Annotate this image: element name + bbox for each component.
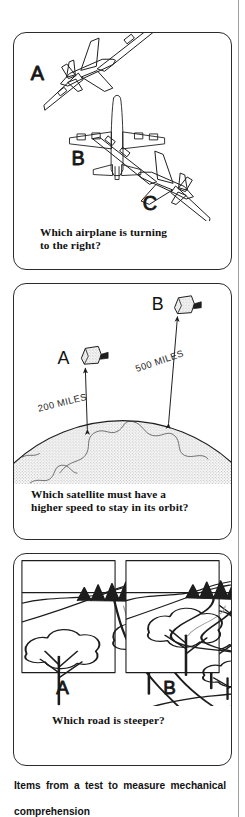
airplane-choice-a-label: A	[31, 62, 45, 84]
satellite-a-body	[81, 346, 108, 364]
road-choice-b-label: B	[163, 677, 176, 698]
airplane-choice-b-label: B	[71, 147, 84, 169]
question-line-1: Which road is steeper?	[52, 714, 221, 727]
roads-illustration: A	[14, 554, 231, 706]
figure-caption: Items from a test to measure mechanical …	[14, 779, 226, 817]
figure-caption-line-1: Items from a test to measure mechanical	[14, 779, 226, 805]
satellite-choice-a-label: A	[58, 348, 70, 368]
question-line-1: Which satellite must have a	[31, 488, 221, 501]
page-margin-rule	[238, 0, 239, 817]
satellite-choice-b-label: B	[152, 294, 164, 314]
question-line-2: higher speed to stay in its orbit?	[31, 501, 221, 514]
question-line-2: to the right?	[40, 239, 221, 252]
test-item-panel-roads: A	[13, 553, 232, 766]
test-item-panel-satellites: B 500 MILES A 200 MILES	[13, 283, 232, 540]
road-choice-a-label: A	[56, 677, 69, 698]
question-text-roads: Which road is steeper?	[14, 714, 231, 727]
question-line-1: Which airplane is turning	[40, 226, 221, 239]
satellites-illustration: B 500 MILES A 200 MILES	[14, 284, 231, 484]
figure-page: A	[0, 0, 245, 817]
satellite-b-distance-label: 500 MILES	[134, 347, 185, 374]
airplane-choice-c-label: C	[143, 192, 157, 214]
satellite-b-body	[175, 296, 202, 314]
figure-caption-line-2: comprehension	[14, 805, 226, 817]
satellite-a-distance-label: 200 MILES	[37, 391, 88, 414]
question-text-satellites: Which satellite must have a higher speed…	[14, 488, 231, 514]
airplanes-illustration: A	[14, 33, 231, 221]
satellite-b-distance-arrow	[169, 317, 178, 424]
question-text-airplanes: Which airplane is turning to the right?	[14, 226, 231, 252]
test-item-panel-airplanes: A	[13, 32, 232, 270]
